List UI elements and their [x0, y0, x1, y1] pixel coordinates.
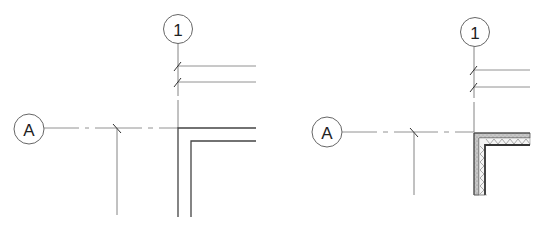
- right-detail: 1 A: [312, 18, 530, 196]
- grid-label-1: 1: [173, 21, 182, 40]
- grid-bubble-a[interactable]: A: [312, 117, 342, 147]
- grid-bubble-1[interactable]: 1: [461, 18, 490, 47]
- wall-hatched[interactable]: [474, 133, 530, 195]
- grid-bubble-1[interactable]: 1: [164, 15, 193, 44]
- tick-mark-icon: [174, 62, 181, 71]
- drawing-canvas: 1 A 1: [0, 0, 541, 227]
- wall-plain[interactable]: [178, 128, 256, 217]
- tick-mark-icon: [470, 66, 477, 75]
- grid-label-1: 1: [470, 24, 479, 43]
- tick-mark-icon: [470, 83, 477, 92]
- left-detail: 1 A: [14, 15, 256, 218]
- grid-label-a: A: [23, 121, 35, 140]
- grid-bubble-a[interactable]: A: [14, 114, 44, 144]
- tick-mark-icon: [174, 78, 181, 87]
- grid-label-a: A: [321, 124, 333, 143]
